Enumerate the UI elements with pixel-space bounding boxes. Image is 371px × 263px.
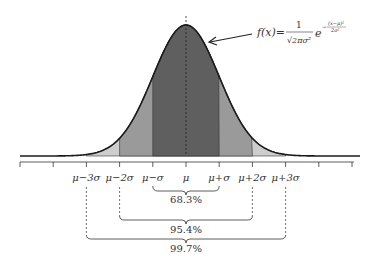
formula-numerator: 1 bbox=[296, 20, 302, 30]
axis-label: μ−2σ bbox=[106, 172, 135, 183]
brace-2-sigma bbox=[120, 216, 253, 224]
pdf-formula: f(x)= 1 √2πσ² e − (x−μ)² 2σ² bbox=[256, 20, 346, 45]
interval-label-2-sigma: 95.4% bbox=[170, 224, 202, 235]
axis-label: μ+2σ bbox=[238, 172, 267, 183]
interval-label-3-sigma: 99.7% bbox=[170, 243, 202, 254]
formula-exp-numerator: (x−μ)² bbox=[328, 20, 344, 27]
formula-arrow bbox=[210, 34, 252, 42]
axis-label: μ+3σ bbox=[272, 172, 301, 183]
interval-label-1-sigma: 68.3% bbox=[170, 194, 202, 205]
normal-distribution-diagram: μ−3σμ−2σμ−σμμ+σμ+2σμ+3σ 68.3%95.4%99.7% … bbox=[0, 0, 371, 263]
axis-label: μ−3σ bbox=[72, 172, 101, 183]
formula-base: e bbox=[315, 27, 322, 40]
axis-label: μ−σ bbox=[142, 172, 165, 183]
formula-lhs: f(x)= bbox=[256, 26, 285, 39]
formula-denominator: √2πσ² bbox=[287, 36, 311, 45]
axis-label: μ+σ bbox=[208, 172, 231, 183]
formula-exp-sign: − bbox=[322, 23, 327, 30]
axis-label: μ bbox=[183, 172, 190, 183]
x-axis bbox=[20, 162, 354, 167]
brace-3-sigma bbox=[86, 235, 285, 243]
diagram-canvas: μ−3σμ−2σμ−σμμ+σμ+2σμ+3σ 68.3%95.4%99.7% … bbox=[0, 0, 371, 263]
formula-exp-denominator: 2σ² bbox=[330, 27, 340, 33]
